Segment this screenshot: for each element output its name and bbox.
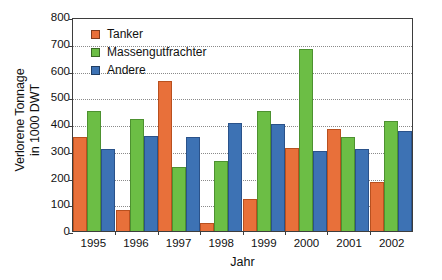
plot-area: TankerMassengutfrachterAndere	[72, 18, 413, 232]
bar-andere-1999	[271, 124, 285, 231]
bar-andere-1997	[186, 137, 200, 231]
x-axis-tick-label: 1998	[200, 236, 243, 254]
bar-tanker-1995	[73, 137, 87, 231]
bar-massengutfrachter-2001	[341, 137, 355, 231]
x-axis-tick-label: 1999	[243, 236, 286, 254]
x-axis-tick-label: 1997	[157, 236, 200, 254]
x-axis-tick-mark	[327, 231, 328, 235]
legend-label: Tanker	[107, 28, 143, 40]
tanker-swatch-icon	[91, 30, 100, 39]
y-axis-tick-label: 800	[40, 12, 70, 24]
y-axis-tick-label: 100	[40, 200, 70, 212]
bar-massengutfrachter-1997	[172, 167, 186, 231]
bar-group-1998	[200, 19, 242, 231]
bar-andere-1996	[144, 136, 158, 231]
y-axis-tick-label: 0	[40, 226, 70, 238]
bar-chart: Verlorene Tonnage in 1000 DWT 0100200300…	[0, 0, 442, 280]
x-axis-tick-label: 2002	[370, 236, 413, 254]
y-axis-title-line-1: Verlorene Tonnage	[13, 68, 28, 171]
legend-item-andere[interactable]: Andere	[91, 63, 206, 77]
x-axis-tick-labels: 19951996199719981999200020012002	[72, 236, 413, 254]
bar-massengutfrachter-1998	[214, 161, 228, 231]
bar-group-1999	[243, 19, 285, 231]
bar-tanker-1997	[158, 81, 172, 231]
y-axis-tick-label: 200	[40, 173, 70, 185]
x-axis-tick-mark	[200, 231, 201, 235]
bar-massengutfrachter-2000	[299, 49, 313, 231]
bar-group-2000	[285, 19, 327, 231]
bar-tanker-1996	[116, 210, 130, 231]
x-axis-tick-mark	[370, 231, 371, 235]
bar-tanker-2001	[327, 129, 341, 231]
legend-label: Massengutfrachter	[107, 46, 206, 58]
legend-item-massengutfrachter[interactable]: Massengutfrachter	[91, 45, 206, 59]
bar-massengutfrachter-1995	[87, 111, 101, 231]
bar-massengutfrachter-1999	[257, 111, 271, 231]
andere-swatch-icon	[91, 66, 100, 75]
bar-massengutfrachter-1996	[130, 119, 144, 231]
x-axis-tick-mark	[285, 231, 286, 235]
x-axis-tick-label: 2000	[285, 236, 328, 254]
bar-andere-2000	[313, 151, 327, 231]
legend-item-tanker[interactable]: Tanker	[91, 27, 206, 41]
bar-andere-1998	[228, 123, 242, 231]
x-axis-tick-mark	[115, 231, 116, 235]
bar-andere-2001	[355, 149, 369, 231]
legend-label: Andere	[107, 64, 146, 76]
bar-tanker-2002	[370, 182, 384, 231]
bar-group-2001	[327, 19, 369, 231]
massengutfrachter-swatch-icon	[91, 48, 100, 57]
x-axis-tick-label: 1996	[115, 236, 158, 254]
bar-tanker-2000	[285, 148, 299, 231]
x-axis-tick-label: 2001	[328, 236, 371, 254]
x-axis-tick-mark	[158, 231, 159, 235]
x-axis-tick-label: 1995	[72, 236, 115, 254]
bar-massengutfrachter-2002	[384, 121, 398, 231]
y-axis-tick-label: 500	[40, 93, 70, 105]
x-axis-title: Jahr	[72, 255, 413, 269]
y-axis-tick-label: 400	[40, 119, 70, 131]
x-axis-tick-mark	[243, 231, 244, 235]
y-axis-tick-label: 600	[40, 66, 70, 78]
bar-andere-2002	[398, 131, 412, 231]
bar-tanker-1998	[200, 223, 214, 231]
y-axis-tick-labels: 0100200300400500600700800	[40, 18, 70, 232]
bar-tanker-1999	[243, 199, 257, 231]
y-axis-tick-label: 300	[40, 146, 70, 158]
bar-group-2002	[370, 19, 412, 231]
legend: TankerMassengutfrachterAndere	[91, 27, 206, 77]
y-axis-tick-mark	[69, 233, 73, 234]
y-axis-tick-label: 700	[40, 39, 70, 51]
bar-andere-1995	[101, 149, 115, 231]
